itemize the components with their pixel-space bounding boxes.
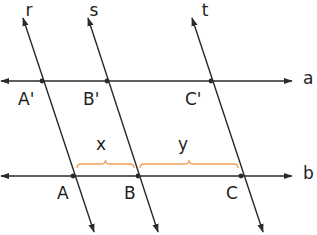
horizontal-lines-group (1, 81, 292, 176)
point-label-A-prime: A' (18, 89, 34, 109)
parallel-lines-diagram: abrstxyA'B'C'ABC (0, 0, 317, 235)
transversal-s (88, 18, 158, 232)
point-label-C-prime: C' (185, 89, 202, 109)
segment-label-x: x (96, 134, 106, 154)
point-A (71, 174, 76, 179)
point-B (136, 174, 141, 179)
point-C (239, 174, 244, 179)
brace-x (77, 160, 134, 168)
braces-group (77, 160, 238, 168)
point-C-prime (209, 79, 214, 84)
point-A-prime (40, 79, 45, 84)
transversal-label-r: r (26, 0, 33, 20)
point-label-A: A (57, 183, 69, 203)
brace-y (140, 160, 238, 168)
segment-label-y: y (178, 134, 188, 154)
point-label-B: B (124, 183, 136, 203)
labels-group: abrstxyA'B'C'ABC (18, 0, 314, 203)
point-label-B-prime: B' (83, 89, 99, 109)
point-B-prime (105, 79, 110, 84)
transversal-label-t: t (202, 0, 209, 20)
transversal-label-s: s (90, 0, 99, 20)
point-label-C: C (226, 183, 238, 203)
line-label-a: a (303, 68, 313, 88)
line-label-b: b (303, 163, 314, 183)
